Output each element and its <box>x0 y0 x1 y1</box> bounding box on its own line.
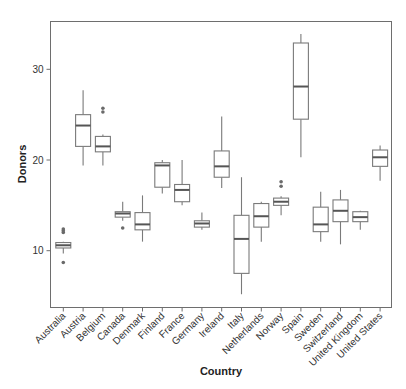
box-ireland <box>214 116 229 188</box>
box-germany <box>194 213 209 230</box>
box-plot-chart: 102030 AustraliaAustriaBelgiumCanadaDenm… <box>0 0 406 389</box>
y-tick-label: 30 <box>32 64 44 75</box>
box-sweden <box>313 192 328 242</box>
iqr-box <box>95 136 110 151</box>
outlier-point <box>279 185 283 189</box>
outlier-point <box>62 227 66 231</box>
outlier-point <box>62 261 66 265</box>
outlier-point <box>121 226 125 230</box>
y-tick-label: 10 <box>32 245 44 256</box>
box-france <box>175 160 190 205</box>
box-canada <box>115 202 130 230</box>
box-series <box>56 34 388 294</box>
box-spain <box>293 34 308 157</box>
box-united-states <box>373 145 388 180</box>
x-axis: AustraliaAustriaBelgiumCanadaDenmarkFinl… <box>32 308 384 369</box>
outlier-point <box>101 110 105 114</box>
iqr-box <box>76 115 91 147</box>
box-finland <box>155 160 170 194</box>
y-tick-label: 20 <box>32 155 44 166</box>
iqr-box <box>313 207 328 231</box>
y-axis-title: Donors <box>16 145 28 184</box>
iqr-box <box>293 43 308 119</box>
iqr-box <box>234 215 249 273</box>
y-axis: 102030 <box>32 64 50 256</box>
box-denmark <box>135 195 150 241</box>
outlier-point <box>101 107 105 111</box>
box-switzerland <box>333 190 348 244</box>
box-australia <box>56 227 71 264</box>
outlier-point <box>279 180 283 184</box>
iqr-box <box>135 213 150 230</box>
box-italy <box>234 177 249 294</box>
box-netherlands <box>254 202 269 242</box>
box-belgium <box>95 107 110 166</box>
iqr-box <box>214 151 229 177</box>
box-austria <box>76 90 91 165</box>
box-united-kingdom <box>353 211 368 230</box>
box-norway <box>274 180 289 215</box>
x-axis-title: Country <box>200 365 243 377</box>
iqr-box <box>175 184 190 201</box>
